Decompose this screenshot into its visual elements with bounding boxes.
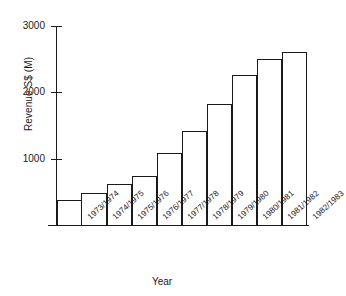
y-tick-label: 3000 xyxy=(13,21,45,31)
y-tick-label: 2000 xyxy=(13,87,45,97)
y-tick-label: 1000 xyxy=(13,154,45,164)
x-axis-title: Year xyxy=(0,276,324,288)
